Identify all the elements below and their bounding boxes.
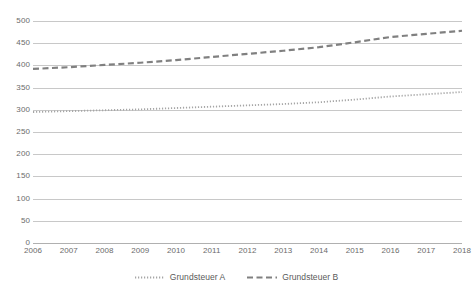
x-tick-label: 2012 [238, 246, 256, 255]
y-tick-label: 250 [2, 128, 30, 136]
x-tick-label: 2016 [381, 246, 399, 255]
x-tick-label: 2010 [167, 246, 185, 255]
x-tick-label: 2011 [203, 246, 221, 255]
legend-line-icon [135, 274, 165, 281]
series-line [33, 31, 462, 69]
y-tick-label: 350 [2, 84, 30, 92]
y-tick-label: 50 [2, 217, 30, 225]
gridline-0 [33, 243, 462, 244]
x-tick-label: 2009 [131, 246, 149, 255]
y-tick-label: 300 [2, 106, 30, 114]
legend-label: Grundsteuer B [282, 273, 338, 282]
x-tick-label: 2017 [417, 246, 435, 255]
plot-area [33, 21, 462, 243]
y-tick-label: 150 [2, 172, 30, 180]
x-tick-label: 2006 [24, 246, 42, 255]
x-tick-label: 2014 [310, 246, 328, 255]
x-tick-label: 2018 [453, 246, 471, 255]
x-tick-label: 2008 [95, 246, 113, 255]
legend-item[interactable]: Grundsteuer A [135, 273, 225, 282]
x-tick-label: 2013 [274, 246, 292, 255]
x-tick-label: 2007 [60, 246, 78, 255]
legend-label: Grundsteuer A [170, 273, 225, 282]
legend-item[interactable]: Grundsteuer B [247, 273, 338, 282]
y-axis: 050100150200250300350400450500 [0, 21, 30, 243]
y-tick-label: 450 [2, 39, 30, 47]
chart-legend: Grundsteuer AGrundsteuer B [0, 269, 473, 285]
y-tick-label: 200 [2, 150, 30, 158]
x-tick-label: 2015 [346, 246, 364, 255]
y-tick-label: 100 [2, 195, 30, 203]
x-axis: 2006200720082009201020112012201320142015… [33, 246, 462, 260]
y-tick-label: 400 [2, 61, 30, 69]
series-layer [33, 21, 462, 243]
series-line [33, 92, 462, 112]
y-tick-label: 500 [2, 17, 30, 25]
grundsteuer-line-chart: 050100150200250300350400450500 200620072… [0, 0, 473, 291]
legend-line-icon [247, 274, 277, 281]
